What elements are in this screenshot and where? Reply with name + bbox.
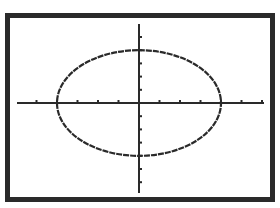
calculator-graph-screen bbox=[0, 0, 280, 208]
